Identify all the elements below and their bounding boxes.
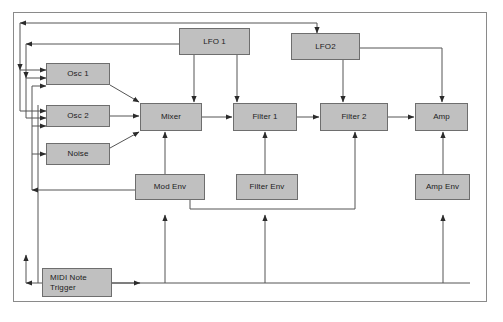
node-lfo1[interactable]: LFO 1 [179,28,250,55]
node-amp[interactable]: Amp [415,103,468,131]
node-mixer[interactable]: Mixer [140,103,202,131]
node-midi-note-trigger[interactable]: MIDI Note Trigger [42,268,112,297]
diagram-canvas: LFO 1 LFO2 Osc 1 Osc 2 Noise Mixer Filte… [0,0,503,322]
node-filter-env[interactable]: Filter Env [236,174,298,200]
node-amp-env[interactable]: Amp Env [415,174,470,200]
node-mod-env[interactable]: Mod Env [135,174,205,200]
wire-osc1-to-mixer [110,85,139,102]
node-lfo1-label: LFO 1 [203,37,226,47]
node-filter2-label: Filter 2 [341,112,366,122]
node-filter-env-label: Filter Env [250,182,285,192]
node-amp-env-label: Amp Env [426,182,459,192]
node-noise-label: Noise [68,149,89,159]
node-osc1[interactable]: Osc 1 [46,63,110,85]
node-filter1-label: Filter 1 [252,112,277,122]
node-filter2[interactable]: Filter 2 [320,103,388,131]
node-mixer-label: Mixer [161,112,181,122]
node-lfo2[interactable]: LFO2 [291,33,360,60]
node-amp-label: Amp [433,112,450,122]
node-noise[interactable]: Noise [46,143,110,165]
node-lfo2-label: LFO2 [315,42,335,52]
node-osc2[interactable]: Osc 2 [46,105,110,127]
node-filter1[interactable]: Filter 1 [233,103,297,131]
node-midi-note-trigger-label: MIDI Note Trigger [50,273,87,293]
node-osc1-label: Osc 1 [67,69,88,79]
node-mod-env-label: Mod Env [154,182,186,192]
wire-noise-to-mixer [110,132,139,148]
node-osc2-label: Osc 2 [67,111,88,121]
